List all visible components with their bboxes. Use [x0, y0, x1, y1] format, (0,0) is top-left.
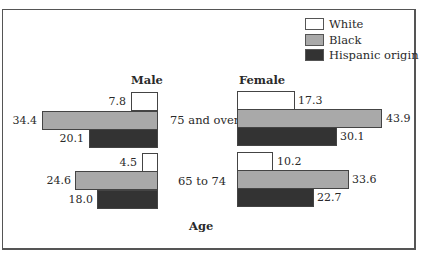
age-label-65-74: 65 to 74	[178, 174, 226, 188]
legend-item-black: Black	[305, 33, 361, 47]
legend-item-hispanic: Hispanic origin	[305, 48, 419, 62]
axis-title-age: Age	[189, 219, 213, 233]
legend-label-hispanic: Hispanic origin	[329, 48, 419, 62]
value-female-75-black: 43.9	[386, 109, 411, 128]
bar-female-75-white	[237, 91, 295, 110]
bar-female-65-black	[237, 170, 349, 189]
bar-male-65-white	[142, 153, 158, 172]
value-female-75-hispanic: 30.1	[340, 127, 365, 146]
value-male-75-white: 7.8	[109, 92, 127, 111]
legend-item-white: White	[305, 17, 363, 31]
bar-male-65-hispanic	[97, 190, 158, 209]
bar-female-75-black	[237, 109, 382, 128]
value-female-65-hispanic: 22.7	[317, 188, 342, 207]
panel-title-male: Male	[131, 73, 163, 87]
value-female-65-black: 33.6	[352, 170, 377, 189]
value-male-75-black: 34.4	[13, 111, 38, 130]
bar-male-75-white	[131, 92, 158, 111]
bar-female-65-hispanic	[237, 188, 314, 207]
age-label-75-over: 75 and over	[170, 113, 239, 127]
legend-swatch-white	[305, 18, 324, 30]
bar-male-75-hispanic	[89, 129, 158, 148]
bar-female-65-white	[237, 152, 273, 171]
bar-male-75-black	[42, 111, 158, 130]
value-male-65-hispanic: 18.0	[69, 190, 94, 209]
legend-swatch-hispanic	[305, 49, 324, 61]
bar-male-65-black	[75, 171, 158, 190]
value-female-75-white: 17.3	[298, 91, 323, 110]
value-male-75-hispanic: 20.1	[60, 129, 85, 148]
legend-label-white: White	[329, 17, 363, 31]
value-male-65-black: 24.6	[47, 171, 72, 190]
legend-label-black: Black	[329, 33, 361, 47]
legend-swatch-black	[305, 34, 324, 46]
panel-title-female: Female	[239, 73, 285, 87]
value-male-65-white: 4.5	[120, 153, 138, 172]
bar-female-75-hispanic	[237, 127, 337, 146]
value-female-65-white: 10.2	[277, 152, 302, 171]
